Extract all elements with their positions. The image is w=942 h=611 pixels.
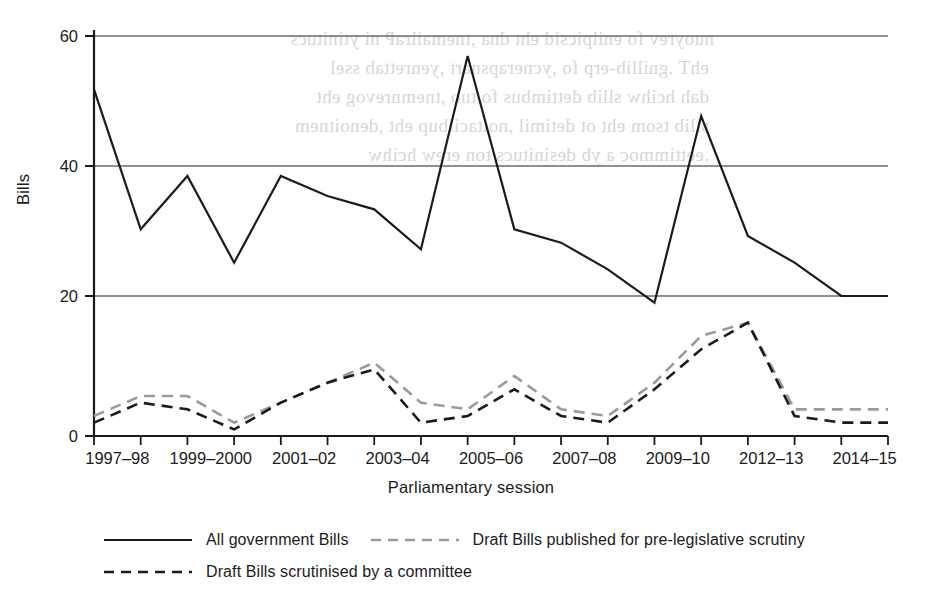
legend-item-all-government-bills: All government Bills	[104, 531, 349, 549]
legend-label-draft-bills-scrutinised: Draft Bills scrutinised by a committee	[206, 563, 472, 581]
legend-row-2: Draft Bills scrutinised by a committee	[104, 556, 942, 588]
legend-item-draft-bills-published: Draft Bills published for pre-legislativ…	[371, 531, 805, 549]
legend-swatch-dark-dashed	[104, 566, 192, 578]
data-series-layer	[94, 56, 888, 429]
gridlines	[94, 36, 888, 296]
y-tick-40: 40	[60, 157, 78, 175]
legend-item-draft-bills-scrutinised: Draft Bills scrutinised by a committee	[104, 563, 472, 581]
y-axis-tick-labels: 0 20 40 60	[60, 27, 78, 445]
y-tick-20: 20	[60, 287, 78, 305]
legend-row-1: All government Bills Draft Bills publish…	[104, 524, 942, 556]
legend-label-all-government-bills: All government Bills	[206, 531, 349, 549]
series-line-2	[94, 323, 888, 430]
x-tick-label-14: 2012–13	[739, 449, 803, 467]
axes	[94, 30, 888, 436]
y-axis-title: Bills	[14, 174, 33, 205]
y-axis-ticks	[85, 36, 94, 436]
x-axis-ticks	[94, 436, 888, 445]
x-tick-label-0: 1997–98	[85, 449, 149, 467]
y-tick-0: 0	[69, 427, 78, 445]
legend-swatch-light-dashed	[371, 534, 459, 546]
legend-swatch-solid	[104, 534, 192, 546]
x-axis-title: Parliamentary session	[0, 478, 942, 497]
x-tick-label-12: 2009–10	[646, 449, 710, 467]
legend-label-draft-bills-published: Draft Bills published for pre-legislativ…	[473, 531, 805, 549]
chart-figure: nuoyrev fo enilpicsid eht dna ,tnemailra…	[0, 0, 942, 611]
x-tick-label-6: 2003–04	[365, 449, 429, 467]
plot-area: 0 20 40 60 1997–981999–20002001–022003–0…	[0, 0, 942, 611]
x-axis-tick-labels: 1997–981999–20002001–022003–042005–06200…	[85, 449, 897, 467]
x-tick-label-4: 2001–02	[272, 449, 336, 467]
series-line-1	[94, 323, 888, 423]
x-tick-label-2: 1999–2000	[169, 449, 252, 467]
series-line-0	[94, 56, 888, 303]
x-tick-label-16: 2014–15	[833, 449, 897, 467]
chart-legend: All government Bills Draft Bills publish…	[104, 524, 942, 588]
line-chart-svg: 0 20 40 60 1997–981999–20002001–022003–0…	[0, 0, 942, 520]
x-tick-label-10: 2007–08	[552, 449, 616, 467]
x-tick-label-8: 2005–06	[459, 449, 523, 467]
y-tick-60: 60	[60, 27, 78, 45]
